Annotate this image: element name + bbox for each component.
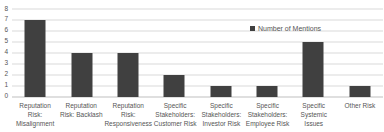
bar-column [105, 9, 151, 97]
bar [257, 86, 278, 97]
bar-chart: 012345678 Reputation Risk: MisalignmentR… [0, 0, 384, 132]
bar [25, 20, 46, 97]
y-tick-label-0: 0 [4, 93, 8, 100]
y-tick-label-1: 1 [4, 82, 8, 89]
bar-column [337, 9, 383, 97]
bar-series [12, 9, 383, 97]
bar [210, 86, 231, 97]
legend: Number of Mentions [250, 25, 321, 32]
bar-column [290, 9, 336, 97]
y-tick-label-2: 2 [4, 71, 8, 78]
y-tick-label-4: 4 [4, 50, 8, 57]
bar [349, 86, 370, 97]
y-tick-label-6: 6 [4, 28, 8, 35]
bar-column [12, 9, 58, 97]
bar [117, 53, 138, 97]
y-tick-label-3: 3 [4, 60, 8, 67]
x-category-label: Reputation Risk: Misalignment [12, 101, 58, 129]
bar [303, 42, 324, 97]
bar-column [244, 9, 290, 97]
x-category-label: Reputation Risk: Responsiveness [104, 101, 152, 129]
x-category-label: Specific Stakeholders: Investor Risk [198, 101, 244, 129]
bar-column [58, 9, 104, 97]
y-axis: 012345678 [0, 9, 9, 97]
bar [71, 53, 92, 97]
bar-column [198, 9, 244, 97]
x-category-label: Specific Stakeholders: Customer Risk [152, 101, 198, 129]
y-tick-label-5: 5 [4, 39, 8, 46]
x-category-label: Specific Stakeholders: Employee Risk [244, 101, 290, 129]
legend-label: Number of Mentions [258, 25, 321, 32]
y-tick-label-8: 8 [4, 6, 8, 13]
legend-square-icon [250, 26, 255, 31]
x-category-label: Specific Systemic Issues [291, 101, 337, 129]
x-category-label: Reputation Risk: Backlash [58, 101, 104, 129]
y-tick-label-7: 7 [4, 17, 8, 24]
bar-column [151, 9, 197, 97]
bar [164, 75, 185, 97]
x-axis-labels: Reputation Risk: MisalignmentReputation … [12, 101, 383, 129]
x-category-label: Other Risk [337, 101, 383, 129]
